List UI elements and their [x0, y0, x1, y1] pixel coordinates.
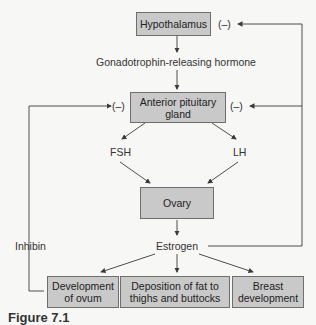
anterior-pituitary-box: Anterior pituitary gland	[130, 92, 226, 123]
negative-feedback-hypothalamus: (–)	[218, 18, 231, 30]
negative-feedback-pituitary-right: (–)	[230, 100, 243, 112]
figure-caption: Figure 7.1	[8, 310, 69, 325]
fsh-label: FSH	[110, 146, 131, 158]
breast-development-box: Breast development	[232, 276, 304, 308]
negative-feedback-pituitary-left: (–)	[112, 100, 125, 112]
hypothalamus-box: Hypothalamus	[136, 12, 211, 36]
ovary-box: Ovary	[140, 187, 214, 219]
estrogen-label: Estrogen	[156, 240, 198, 252]
gnrh-label: Gonadotrophin-releasing hormone	[96, 56, 256, 68]
inhibin-label: Inhibin	[15, 240, 46, 252]
deposition-of-fat-box: Deposition of fat to thighs and buttocks	[120, 276, 230, 308]
lh-label: LH	[233, 146, 246, 158]
development-of-ovum-box: Development of ovum	[47, 276, 119, 308]
